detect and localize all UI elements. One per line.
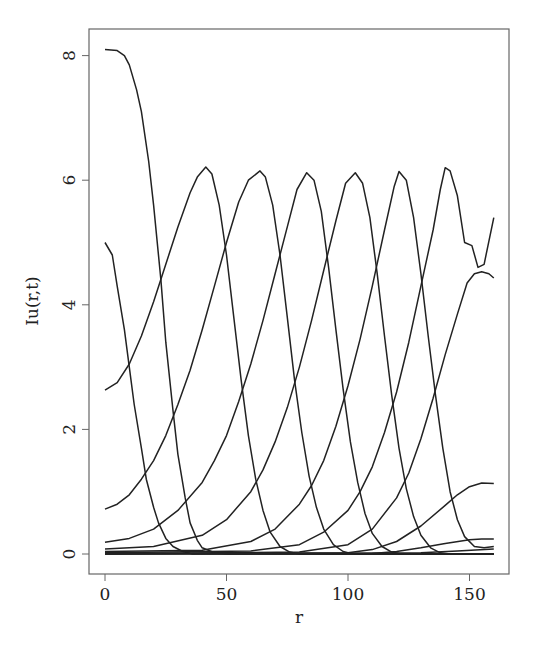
curve-t3 xyxy=(105,167,494,554)
curve-t5 xyxy=(105,173,494,554)
y-tick-label: 0 xyxy=(59,549,79,560)
y-axis: 02468 xyxy=(59,50,89,559)
x-tick-label: 50 xyxy=(216,584,238,604)
curve-t10 xyxy=(105,483,494,554)
curve-t4 xyxy=(105,171,494,554)
y-tick-label: 8 xyxy=(59,50,79,61)
curve-t8 xyxy=(105,168,494,553)
x-tick-label: 150 xyxy=(453,584,485,604)
x-tick-label: 0 xyxy=(100,584,111,604)
x-axis-label: r xyxy=(295,607,304,627)
x-axis: 050100150 xyxy=(100,574,486,604)
curve-t7 xyxy=(105,172,494,552)
curve-t1 xyxy=(105,49,494,554)
y-tick-label: 4 xyxy=(59,299,79,310)
plot-frame xyxy=(89,29,509,574)
y-axis-label: Iu(r,t) xyxy=(22,276,42,325)
y-tick-label: 2 xyxy=(59,424,79,435)
chart: 02468 050100150 r Iu(r,t) xyxy=(0,0,536,650)
data-curves xyxy=(105,49,494,554)
x-tick-label: 100 xyxy=(332,584,364,604)
y-tick-label: 6 xyxy=(59,175,79,186)
curve-t6 xyxy=(105,173,494,554)
